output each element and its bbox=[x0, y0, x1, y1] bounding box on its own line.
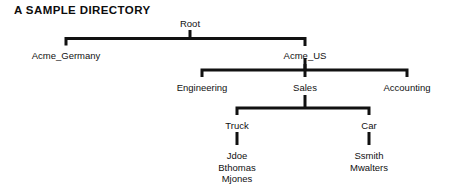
connector-root-to-children bbox=[66, 39, 305, 47]
node-engineering[interactable]: Engineering bbox=[177, 82, 228, 93]
leaf-item[interactable]: Ssmith bbox=[350, 150, 388, 162]
leaf-group-truck-users: Jdoe Bthomas Mjones bbox=[218, 150, 256, 185]
leaf-item[interactable]: Bthomas bbox=[218, 162, 256, 174]
connector-sales-to-children bbox=[237, 108, 369, 115]
leaf-item[interactable]: Mwalters bbox=[350, 162, 388, 174]
leaf-item[interactable]: Jdoe bbox=[218, 150, 256, 162]
node-truck[interactable]: Truck bbox=[225, 120, 248, 131]
leaf-group-car-users: Ssmith Mwalters bbox=[350, 150, 388, 173]
node-root[interactable]: Root bbox=[180, 18, 200, 29]
node-acme-germany[interactable]: Acme_Germany bbox=[32, 50, 101, 61]
node-car[interactable]: Car bbox=[361, 120, 376, 131]
node-sales[interactable]: Sales bbox=[293, 82, 317, 93]
node-accounting[interactable]: Accounting bbox=[383, 82, 430, 93]
leaf-item[interactable]: Mjones bbox=[218, 173, 256, 185]
node-acme-us[interactable]: Acme_US bbox=[284, 50, 327, 61]
directory-tree-diagram: A SAMPLE DIRECTORY Root Acme_Germany Acm… bbox=[0, 0, 458, 192]
